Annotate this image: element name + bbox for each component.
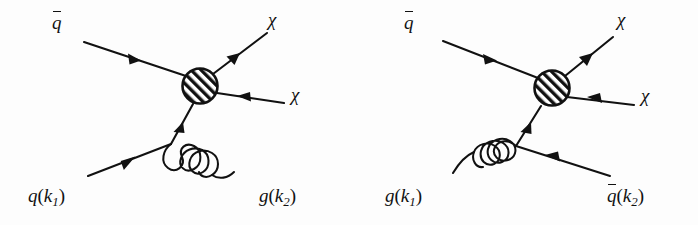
diagram-right: q χ χ g(k1) q(k2): [349, 0, 698, 225]
outgoing-chi-lower-leg: [217, 92, 284, 103]
label-incoming-quark-paren-close: ): [59, 185, 65, 206]
label-incoming-antiquark-text: q: [52, 12, 62, 32]
outgoing-chi-upper-line: [213, 33, 267, 74]
gluon-coil-tail: [453, 152, 474, 173]
label-outgoing-antiquark: q(k2): [607, 185, 644, 209]
incoming-antiquark-leg: [84, 42, 186, 76]
gluon-coil-path: [163, 144, 218, 177]
outgoing-chi-lower-arrowhead: [587, 93, 602, 103]
label-outgoing-antiquark-base: q: [607, 185, 617, 205]
label-incoming-quark: q(k1): [28, 186, 65, 209]
label-incoming-quark-base: q: [28, 185, 38, 206]
label-outgoing-antiquark-paren-close: ): [638, 185, 644, 206]
label-outgoing-chi-lower: χ: [641, 86, 649, 105]
label-outgoing-gluon: g(k2): [259, 186, 296, 209]
incoming-antiquark-arrowhead: [128, 54, 141, 65]
gluon-coil-path: [473, 139, 516, 167]
label-incoming-gluon-momentum: k: [401, 185, 409, 206]
feynman-diagram-figure: q χ χ q(k1) g(k2): [0, 0, 698, 225]
incoming-quark-leg: [88, 144, 171, 176]
internal-quark-arrowhead: [521, 122, 532, 134]
label-outgoing-gluon-paren-close: ): [290, 185, 296, 206]
internal-quark-propagator: [171, 104, 193, 144]
label-incoming-antiquark-text: q: [404, 12, 414, 32]
outgoing-chi-lower-arrowhead: [237, 92, 251, 102]
internal-quark-arrowhead: [174, 122, 185, 133]
label-outgoing-gluon-momentum: k: [275, 185, 283, 206]
label-incoming-gluon-base: g: [385, 185, 395, 206]
incoming-antiquark-arrowhead: [483, 54, 497, 65]
label-incoming-quark-momentum: k: [44, 185, 52, 206]
effective-vertex-blob: [183, 69, 218, 104]
outgoing-chi-lower-leg: [567, 93, 634, 105]
diagram-left: q χ χ q(k1) g(k2): [0, 0, 349, 225]
outgoing-gluon-leg: [163, 144, 234, 178]
internal-quark-propagator: [516, 106, 541, 146]
outgoing-antiquark-line: [516, 146, 610, 176]
effective-vertex-blob: [535, 71, 570, 106]
label-outgoing-chi-upper: χ: [268, 10, 276, 29]
incoming-antiquark-leg: [443, 41, 538, 78]
outgoing-chi-upper-leg: [565, 37, 613, 76]
label-incoming-antiquark: q: [52, 12, 62, 32]
label-outgoing-gluon-base: g: [259, 185, 269, 206]
label-incoming-gluon-paren-close: ): [416, 185, 422, 206]
label-outgoing-antiquark-momentum: k: [623, 185, 631, 206]
label-outgoing-chi-upper: χ: [617, 10, 625, 29]
label-outgoing-chi-lower: χ: [291, 85, 299, 104]
label-incoming-gluon: g(k1): [385, 186, 422, 209]
outgoing-chi-upper-leg: [213, 33, 267, 74]
incoming-gluon-leg: [453, 139, 516, 173]
outgoing-antiquark-leg: [516, 146, 610, 176]
label-incoming-antiquark: q: [404, 12, 414, 32]
